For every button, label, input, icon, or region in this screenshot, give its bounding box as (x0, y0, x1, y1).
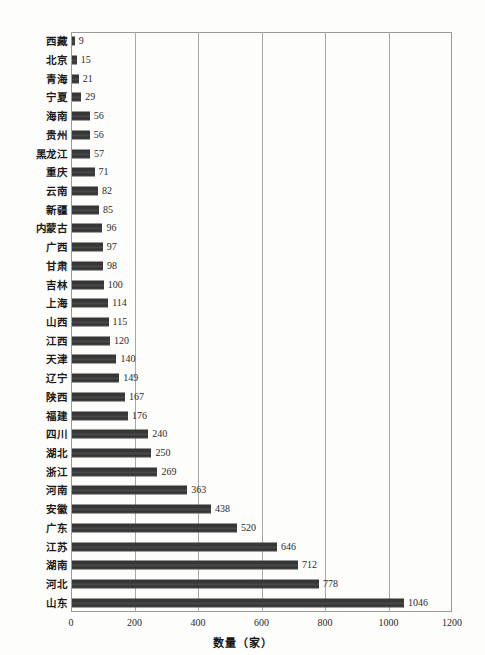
bar (72, 149, 90, 158)
bar-row: 黑龙江57 (0, 144, 485, 163)
bar (72, 598, 404, 607)
bar (72, 486, 187, 495)
bar (72, 392, 125, 401)
bar-row: 山西115 (0, 313, 485, 332)
bar-row: 江苏646 (0, 537, 485, 556)
category-label: 云南 (46, 186, 67, 197)
bar (72, 243, 103, 252)
value-label: 9 (79, 36, 84, 46)
value-label: 29 (85, 92, 95, 102)
value-label: 250 (155, 448, 170, 458)
category-label: 天津 (46, 354, 67, 365)
x-axis-title: 数量（家） (0, 634, 485, 650)
bar-row: 海南56 (0, 107, 485, 126)
value-label: 140 (120, 354, 135, 364)
category-label: 北京 (46, 55, 67, 66)
value-label: 1046 (408, 598, 428, 608)
bar-row: 陕西167 (0, 387, 485, 406)
bar-row: 湖南712 (0, 556, 485, 575)
category-label: 广东 (46, 523, 67, 534)
bar (72, 523, 237, 532)
value-label: 100 (108, 280, 123, 290)
value-label: 98 (107, 261, 117, 271)
value-label: 114 (112, 298, 127, 308)
value-label: 646 (281, 542, 296, 552)
bar (72, 411, 128, 420)
value-label: 82 (102, 186, 112, 196)
bar-row: 广西97 (0, 238, 485, 257)
bar (72, 37, 75, 46)
value-label: 56 (94, 111, 104, 121)
x-tick-label: 400 (191, 617, 206, 628)
category-label: 湖北 (46, 448, 67, 459)
category-label: 福建 (46, 410, 67, 421)
bar (72, 430, 148, 439)
bar-row: 四川240 (0, 425, 485, 444)
category-label: 青海 (46, 74, 67, 85)
category-label: 河南 (46, 485, 67, 496)
value-label: 240 (152, 429, 167, 439)
x-tick-label: 1000 (379, 617, 399, 628)
category-label: 陕西 (46, 392, 67, 403)
bar-row: 重庆71 (0, 163, 485, 182)
bar (72, 467, 157, 476)
bar (72, 561, 298, 570)
bar-row: 上海114 (0, 294, 485, 313)
category-label: 江西 (46, 335, 67, 346)
value-label: 71 (99, 167, 109, 177)
bar-row: 甘肃98 (0, 257, 485, 276)
bar-row: 云南82 (0, 182, 485, 201)
bar-row: 河北778 (0, 575, 485, 594)
x-tick-label: 200 (127, 617, 142, 628)
bar-row: 贵州56 (0, 126, 485, 145)
category-label: 湖南 (46, 560, 67, 571)
value-label: 167 (129, 392, 144, 402)
bar (72, 448, 151, 457)
value-label: 149 (123, 373, 138, 383)
x-tick-label: 1200 (442, 617, 462, 628)
bar-row: 福建176 (0, 406, 485, 425)
x-tick-label: 600 (254, 617, 269, 628)
bar (72, 542, 277, 551)
value-label: 15 (81, 55, 91, 65)
category-label: 黑龙江 (36, 148, 68, 159)
bar (72, 374, 119, 383)
category-label: 安徽 (46, 504, 67, 515)
bar-row: 内蒙古96 (0, 219, 485, 238)
bar-row: 青海21 (0, 69, 485, 88)
value-label: 712 (302, 560, 317, 570)
bar-row: 天津140 (0, 350, 485, 369)
category-label: 广西 (46, 242, 67, 253)
bar-row: 新疆85 (0, 200, 485, 219)
value-label: 438 (215, 504, 230, 514)
bar (72, 205, 99, 214)
bar-row: 湖北250 (0, 444, 485, 463)
value-label: 97 (107, 242, 117, 252)
category-label: 甘肃 (46, 261, 67, 272)
value-label: 520 (241, 523, 256, 533)
bar (72, 355, 116, 364)
bar (72, 187, 98, 196)
category-label: 海南 (46, 111, 67, 122)
bar (72, 317, 109, 326)
value-label: 96 (106, 223, 116, 233)
value-label: 269 (161, 467, 176, 477)
value-label: 778 (323, 579, 338, 589)
value-label: 85 (103, 205, 113, 215)
bar-row: 北京15 (0, 51, 485, 70)
bar-row: 辽宁149 (0, 369, 485, 388)
bar (72, 112, 90, 121)
bar (72, 280, 104, 289)
value-label: 21 (83, 74, 93, 84)
category-label: 河北 (46, 579, 67, 590)
bar-row: 山东1046 (0, 593, 485, 612)
category-label: 重庆 (46, 167, 67, 178)
category-label: 内蒙古 (36, 223, 68, 234)
bar-row: 宁夏29 (0, 88, 485, 107)
bar-row: 西藏9 (0, 32, 485, 51)
x-tick-label: 800 (318, 617, 333, 628)
category-label: 贵州 (46, 130, 67, 141)
bar (72, 168, 95, 177)
category-label: 江苏 (46, 541, 67, 552)
bar-rows: 西藏9北京15青海21宁夏29海南56贵州56黑龙江57重庆71云南82新疆85… (0, 32, 485, 612)
